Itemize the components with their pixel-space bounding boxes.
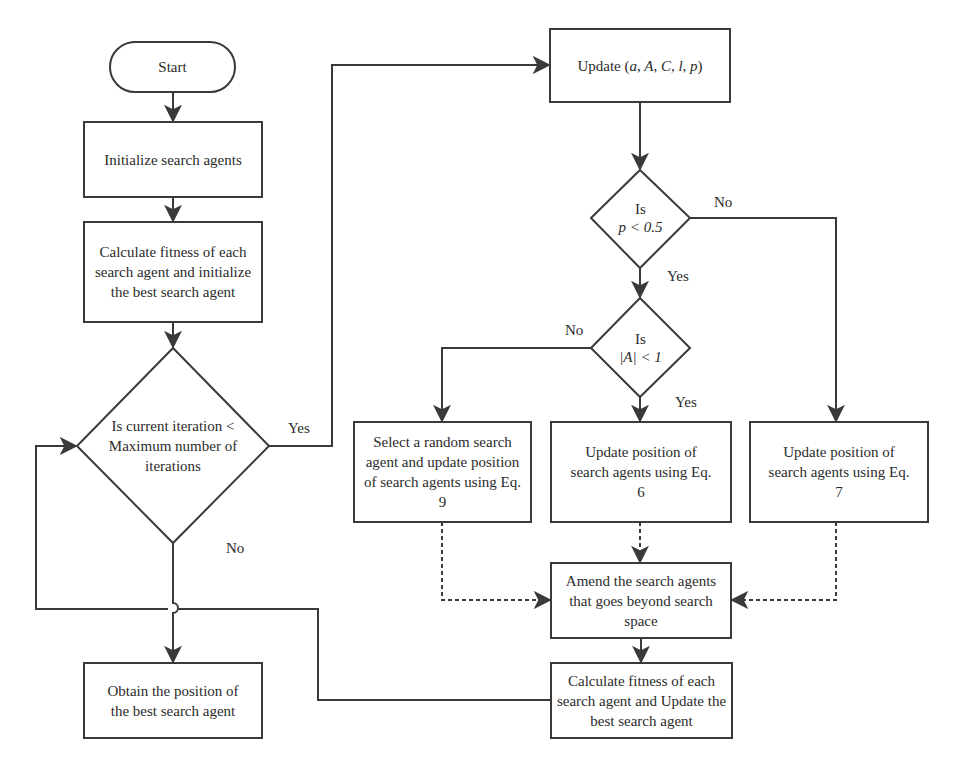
calc-init-label: Calculate fitness of each search agent a… [86,222,260,322]
a-decision-line1: Is [635,330,646,348]
iteration-decision-label: Is current iteration < Maximum number of… [97,406,249,486]
update-prefix: Update ( [577,56,629,76]
amend-label: Amend the search agents that goes beyond… [553,563,729,638]
calc-update-label: Calculate fitness of each search agent a… [551,663,732,738]
eq7-update-label: Update position of search agents using E… [760,422,918,522]
init-label: Initialize search agents [84,122,262,197]
iteration-yes-label: Yes [288,420,310,437]
update-params-label: Update (a, A, C, l, p) [550,29,730,102]
start-label: Start [110,42,235,92]
p-decision-line1: Is [635,200,646,218]
p-no-label: No [714,194,732,211]
obtain-label: Obtain the position of the best search a… [94,663,252,738]
update-suffix: ) [698,56,703,76]
p-decision-line2: p < 0.5 [619,218,663,236]
edge-p-no [690,218,836,421]
edge-iter-yes [269,65,549,446]
p-decision-label: Is p < 0.5 [591,193,690,243]
random-update-label: Select a random search agent and update … [358,422,527,522]
iteration-no-label: No [226,540,244,557]
edge-a-no [442,348,591,421]
edge-eq7-amend [732,522,836,600]
a-decision-line2: |A| < 1 [619,348,662,366]
update-vars: a, A, C, l, p [629,56,697,76]
eq6-update-label: Update position of search agents using E… [561,422,721,522]
edge-random-amend [442,522,550,600]
flowchart-canvas [0,0,963,778]
a-yes-label: Yes [675,394,697,411]
a-no-label: No [565,322,583,339]
p-yes-label: Yes [667,268,689,285]
a-decision-label: Is |A| < 1 [591,323,690,373]
edge-iter-no [173,543,178,662]
